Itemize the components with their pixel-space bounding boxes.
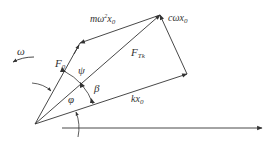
angle-arc-phase	[76, 112, 79, 137]
label-c-omega-x: cωx	[168, 12, 184, 23]
label-sub-0: 0	[184, 17, 188, 25]
label-cwx0: cωx0	[168, 13, 187, 25]
vector-F0-head	[74, 45, 79, 54]
label-kx: kx	[131, 93, 140, 104]
label-F0: F0	[55, 58, 65, 71]
vector-kx0	[35, 74, 187, 124]
label-sub-Tk: Tk	[138, 52, 145, 60]
label-F: F	[131, 46, 138, 58]
label-sub-0: 0	[112, 18, 116, 26]
label-phi: φ	[68, 94, 74, 105]
label-FTk: FTk	[131, 47, 145, 60]
angle-arrow-F0	[32, 83, 51, 91]
label-psi: ψ	[78, 65, 85, 76]
label-m-omega: mω	[90, 13, 104, 24]
label-mw2x0: mω2x0	[90, 13, 115, 26]
label-sub-0: 0	[140, 98, 144, 106]
label-kx0: kx0	[131, 94, 143, 106]
phasor-diagram: mω2x0 cωx0 ω F0 ψ FTk β φ kx0	[0, 0, 270, 145]
vector-FTk	[35, 15, 160, 124]
label-F: F	[55, 57, 62, 69]
label-sub-0: 0	[62, 63, 66, 71]
label-omega: ω	[17, 46, 25, 57]
label-beta: β	[94, 83, 99, 94]
rotation-arrow-icon	[13, 57, 34, 62]
diagram-canvas	[0, 0, 270, 145]
